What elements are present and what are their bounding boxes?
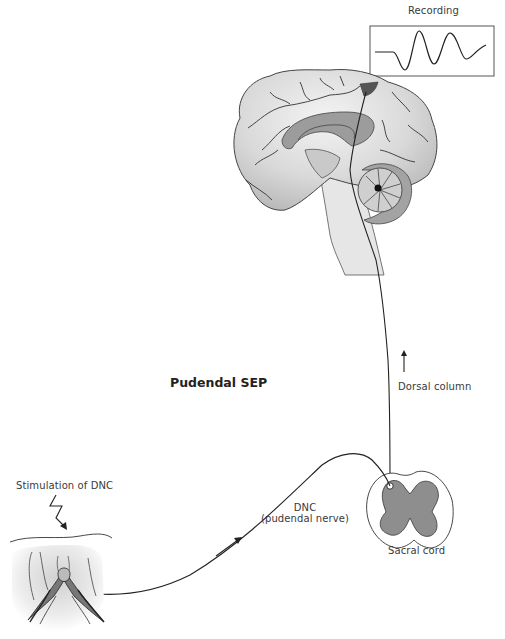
recording-box bbox=[370, 26, 494, 76]
figure-title: Pudendal SEP bbox=[170, 375, 267, 390]
stimulation-label: Stimulation of DNC bbox=[16, 480, 113, 491]
dnc-label: DNC (pudendal nerve) bbox=[255, 502, 355, 524]
sacral-cord-label: Sacral cord bbox=[388, 545, 445, 556]
pelvic-illustration bbox=[10, 534, 112, 632]
dorsal-column-label: Dorsal column bbox=[398, 381, 471, 392]
sacral-cord-section bbox=[367, 471, 454, 548]
arrow-up-icon bbox=[401, 350, 407, 372]
recording-label: Recording bbox=[408, 5, 459, 16]
brain-illustration bbox=[234, 70, 437, 276]
dnc-label-line2: (pudendal nerve) bbox=[255, 513, 355, 524]
dnc-nerve-pathway bbox=[98, 454, 390, 595]
lightning-bolt-icon bbox=[50, 495, 67, 530]
dnc-label-line1: DNC bbox=[255, 502, 355, 513]
pudendal-sep-diagram bbox=[0, 0, 505, 639]
arrow-up-right-icon bbox=[216, 537, 242, 556]
